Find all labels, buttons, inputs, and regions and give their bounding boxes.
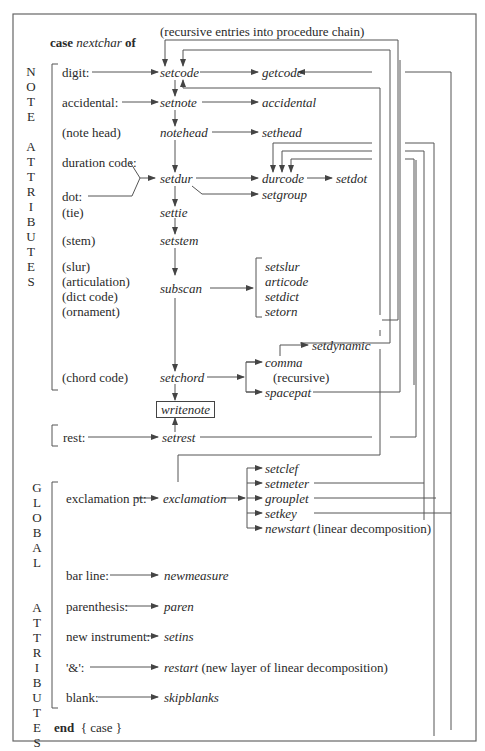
proc-getcode: getcode (262, 65, 302, 80)
input-slur: (slur) (62, 259, 90, 274)
input-note-head: (note head) (62, 125, 121, 140)
proc-setrest: setrest (162, 430, 195, 445)
proc-spacepat: spacepat (265, 385, 311, 400)
proc-settie: settie (160, 205, 187, 220)
end-keyword: end (54, 720, 74, 735)
proc-setins: setins (164, 629, 194, 644)
proc-setdot: setdot (336, 171, 367, 186)
proc-setdur: setdur (160, 171, 193, 186)
proc-setorn: setorn (265, 304, 298, 319)
input-ampersand: '&': (66, 660, 84, 675)
proc-skipblanks: skipblanks (164, 690, 219, 705)
proc-notehead: notehead (160, 125, 208, 140)
end-case: end { case } (54, 720, 122, 735)
input-stem: (stem) (62, 233, 95, 248)
proc-comma: comma (265, 355, 303, 370)
global-attributes-side-label: GLOBAL ATTRIBUTES (30, 480, 44, 750)
case-variable: nextchar (76, 35, 121, 50)
end-comment: { case } (81, 720, 122, 735)
newstart-note: (linear decomposition) (313, 521, 431, 536)
input-rest: rest: (63, 430, 85, 445)
restart-row: restart (new layer of linear decompositi… (164, 660, 388, 675)
recursive-label: (recursive) (273, 370, 329, 385)
input-parenthesis: parenthesis: (66, 599, 128, 614)
of-keyword: of (125, 35, 136, 50)
proc-setstem: setstem (160, 233, 198, 248)
input-digit: digit: (62, 65, 89, 80)
case-keyword: case (50, 35, 73, 50)
input-ornament: (ornament) (62, 304, 120, 319)
input-articulation: (articulation) (62, 274, 130, 289)
proc-newmeasure: newmeasure (164, 568, 229, 583)
proc-grouplet: grouplet (265, 491, 309, 506)
input-accidental: accidental: (62, 95, 118, 110)
proc-restart: restart (164, 660, 198, 675)
proc-setnote: setnote (160, 95, 197, 110)
proc-setdict: setdict (265, 289, 299, 304)
proc-setkey: setkey (265, 506, 297, 521)
proc-sethead: sethead (262, 125, 302, 140)
proc-paren: paren (164, 599, 194, 614)
proc-setdynamic: setdynamic (312, 338, 370, 353)
proc-subscan: subscan (160, 281, 202, 296)
proc-setchord: setchord (160, 370, 204, 385)
proc-setmeter: setmeter (265, 476, 309, 491)
proc-durcode: durcode (262, 171, 304, 186)
proc-setcode: setcode (160, 65, 199, 80)
proc-articode: articode (265, 274, 308, 289)
restart-note: (new layer of linear decomposition) (201, 660, 387, 675)
case-header: case nextchar of (50, 35, 136, 50)
newstart-row: newstart (linear decomposition) (265, 521, 431, 536)
input-blank: blank: (66, 690, 99, 705)
input-chord-code: (chord code) (62, 370, 128, 385)
proc-setslur: setslur (265, 259, 300, 274)
proc-newstart: newstart (265, 521, 310, 536)
input-dot: dot: (62, 189, 82, 204)
input-duration-code: duration code: (62, 155, 137, 170)
input-exclamation: exclamation pt: (66, 491, 147, 506)
input-bar-line: bar line: (66, 568, 109, 583)
input-dict-code: (dict code) (62, 289, 118, 304)
proc-setclef: setclef (265, 461, 298, 476)
proc-exclamation: exclamation (163, 491, 227, 506)
proc-writenote-box: writenote (156, 401, 215, 418)
proc-setgroup: setgroup (262, 187, 307, 202)
proc-accidental: accidental (262, 95, 316, 110)
recursive-entries-note: (recursive entries into procedure chain) (160, 24, 364, 39)
note-attributes-side-label: NOTE ATTRIBUTES (24, 64, 38, 289)
input-tie: (tie) (62, 205, 84, 220)
diagram-canvas: case nextchar of (recursive entries into… (0, 0, 485, 751)
input-new-instrument: new instrument: (66, 629, 150, 644)
